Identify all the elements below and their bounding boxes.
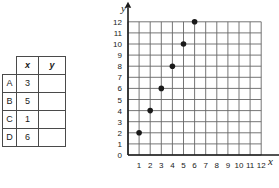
cell-a-y[interactable] [39, 75, 66, 93]
cell-b-x[interactable]: 5 [17, 93, 39, 111]
cell-c-y[interactable] [39, 111, 66, 129]
cell-d-y[interactable] [39, 129, 66, 147]
table-row: C 1 [3, 111, 66, 129]
axes [125, 2, 279, 158]
y-tick-label: 11 [114, 29, 123, 38]
x-axis-label: x [267, 155, 273, 167]
x-tick-label: 7 [203, 161, 208, 170]
x-tick-label: 8 [215, 161, 220, 170]
graph-svg: 123456789101112 0123456789101112 x y [100, 0, 279, 188]
x-tick-label: 10 [235, 161, 244, 170]
y-tick-label: 2 [118, 129, 123, 138]
data-point[interactable] [192, 19, 198, 25]
cell-d-x[interactable]: 6 [17, 129, 39, 147]
grid-lines [128, 22, 261, 155]
row-label-d: D [3, 129, 17, 147]
table-header-x: x [17, 57, 39, 75]
row-label-c: C [3, 111, 17, 129]
x-tick-label: 4 [170, 161, 175, 170]
y-tick-label: 7 [118, 73, 123, 82]
data-point[interactable] [159, 86, 165, 92]
x-tick-label: 5 [181, 161, 186, 170]
table-corner-cell [3, 57, 17, 75]
y-axis-label: y [120, 2, 126, 14]
table-row: D 6 [3, 129, 66, 147]
row-label-a: A [3, 75, 17, 93]
y-tick-label: 10 [113, 40, 122, 49]
x-axis-tick-labels: 123456789101112 [137, 161, 266, 170]
y-tick-label: 4 [118, 107, 123, 116]
x-tick-label: 2 [148, 161, 153, 170]
x-tick-label: 11 [246, 161, 255, 170]
x-tick-label: 9 [226, 161, 231, 170]
table-row: B 5 [3, 93, 66, 111]
y-tick-label: 3 [118, 118, 123, 127]
cell-a-x[interactable]: 3 [17, 75, 39, 93]
x-tick-label: 3 [159, 161, 164, 170]
data-point[interactable] [136, 130, 142, 136]
x-tick-label: 6 [192, 161, 197, 170]
xy-data-table: x y A 3 B 5 C 1 D 6 [2, 56, 66, 147]
origin-label: 0 [118, 151, 123, 160]
y-tick-label: 12 [113, 18, 122, 27]
y-tick-label: 6 [118, 84, 123, 93]
row-label-b: B [3, 93, 17, 111]
data-point[interactable] [170, 63, 176, 69]
cell-b-y[interactable] [39, 93, 66, 111]
data-point[interactable] [181, 41, 187, 47]
y-tick-label: 5 [118, 96, 123, 105]
coordinate-graph: 123456789101112 0123456789101112 x y [100, 0, 279, 188]
y-tick-label: 9 [118, 51, 123, 60]
x-tick-label: 12 [257, 161, 266, 170]
table-header-row: x y [3, 57, 66, 75]
x-tick-label: 1 [137, 161, 142, 170]
data-point[interactable] [147, 108, 153, 114]
y-tick-label: 1 [118, 140, 123, 149]
cell-c-x[interactable]: 1 [17, 111, 39, 129]
y-axis-tick-labels: 0123456789101112 [113, 18, 122, 160]
y-tick-label: 8 [118, 62, 123, 71]
table-header-y: y [39, 57, 66, 75]
table-row: A 3 [3, 75, 66, 93]
